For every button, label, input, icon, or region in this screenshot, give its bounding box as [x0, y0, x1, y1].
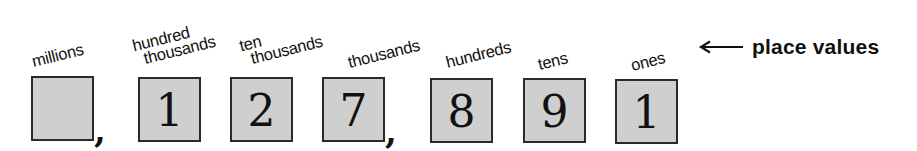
label-text: hundreds [444, 39, 512, 70]
label-text: tens [536, 50, 569, 72]
digit-box-millions [31, 76, 94, 141]
digit-box-thousands: 7 [322, 77, 385, 142]
label-text: millions [30, 42, 85, 69]
label-millions: millions [30, 42, 85, 69]
left-arrow-icon [698, 40, 744, 54]
digit-box-ones: 1 [615, 79, 678, 144]
digit-box-tens: 9 [523, 78, 586, 143]
label-text: ones [629, 50, 666, 73]
digit-box-ten-thousands: 2 [230, 77, 293, 142]
digit: 1 [633, 91, 661, 135]
digit-box-hundreds: 8 [430, 78, 493, 143]
comma-separator: , [385, 114, 397, 148]
place-values-legend: place values [698, 35, 879, 59]
label-hundreds: hundreds [444, 39, 512, 70]
digit: 1 [156, 89, 184, 133]
digit: 2 [248, 89, 276, 133]
digit-box-hundred-thousands: 1 [138, 77, 201, 142]
legend-label: place values [752, 35, 879, 59]
label-hundred-thousands: hundred thousands [131, 19, 217, 68]
label-thousands: thousands [346, 38, 421, 70]
label-text: thousands [346, 38, 421, 70]
comma-separator: , [94, 113, 106, 147]
digit: 8 [448, 90, 476, 134]
label-ten-thousands: ten thousands [238, 19, 324, 68]
digit: 9 [541, 90, 569, 134]
label-ones: ones [629, 50, 666, 73]
digit: 7 [340, 89, 368, 133]
label-tens: tens [536, 50, 569, 72]
place-value-diagram: millions hundred thousands ten thousands… [0, 0, 917, 151]
